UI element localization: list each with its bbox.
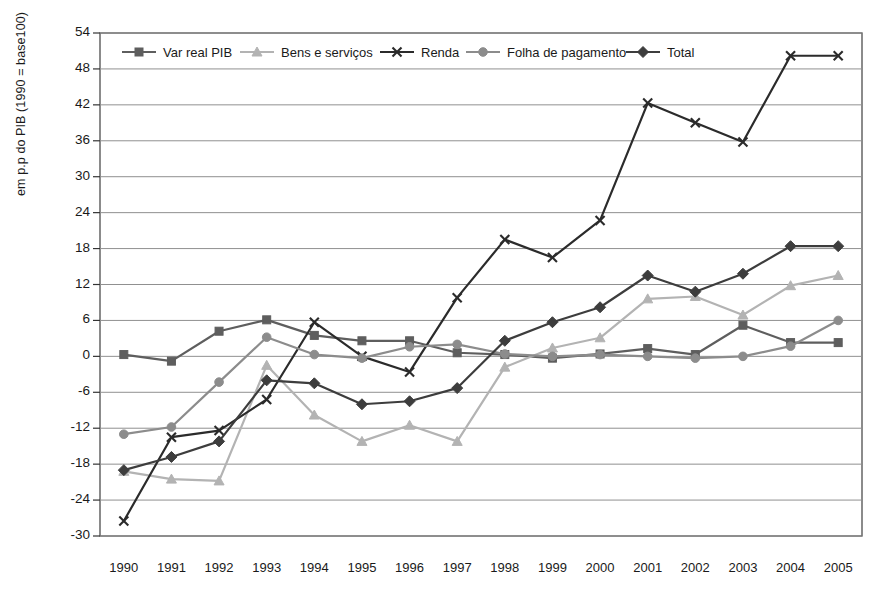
legend-label: Folha de pagamento (507, 45, 626, 60)
data-point-marker (167, 423, 176, 432)
data-point-marker (479, 48, 488, 57)
data-point-marker (215, 327, 223, 335)
data-point-marker (310, 331, 318, 339)
data-point-marker (167, 357, 175, 365)
data-point-marker (263, 316, 271, 324)
legend-label: Var real PIB (163, 45, 232, 60)
data-point-marker (834, 339, 842, 347)
data-point-marker (120, 430, 129, 439)
data-point-marker (739, 321, 747, 329)
legend-label: Total (667, 45, 695, 60)
data-point-marker (135, 48, 143, 56)
x-tick-label: 2005 (808, 560, 868, 575)
data-point-marker (739, 352, 748, 361)
data-point-marker (358, 354, 367, 363)
data-point-marker (358, 337, 366, 345)
legend-label: Renda (421, 45, 460, 60)
data-point-marker (453, 340, 462, 349)
data-point-marker (834, 316, 843, 325)
data-point-marker (453, 349, 461, 357)
data-point-marker (644, 345, 652, 353)
plot-area: Var real PIBBens e serviçosRendaFolha de… (0, 0, 878, 604)
data-point-marker (691, 354, 700, 363)
data-point-marker (310, 350, 319, 359)
legend-label: Bens e serviços (281, 45, 373, 60)
data-point-marker (643, 352, 652, 361)
data-point-marker (262, 333, 271, 342)
data-point-marker (501, 350, 510, 359)
data-point-marker (120, 351, 128, 359)
chart-container: em p.p do PIB (1990 = base100) 544842363… (0, 0, 878, 604)
data-point-marker (596, 350, 605, 359)
data-point-marker (548, 352, 557, 361)
data-point-marker (405, 342, 414, 351)
data-point-marker (786, 342, 795, 351)
data-point-marker (215, 378, 224, 387)
